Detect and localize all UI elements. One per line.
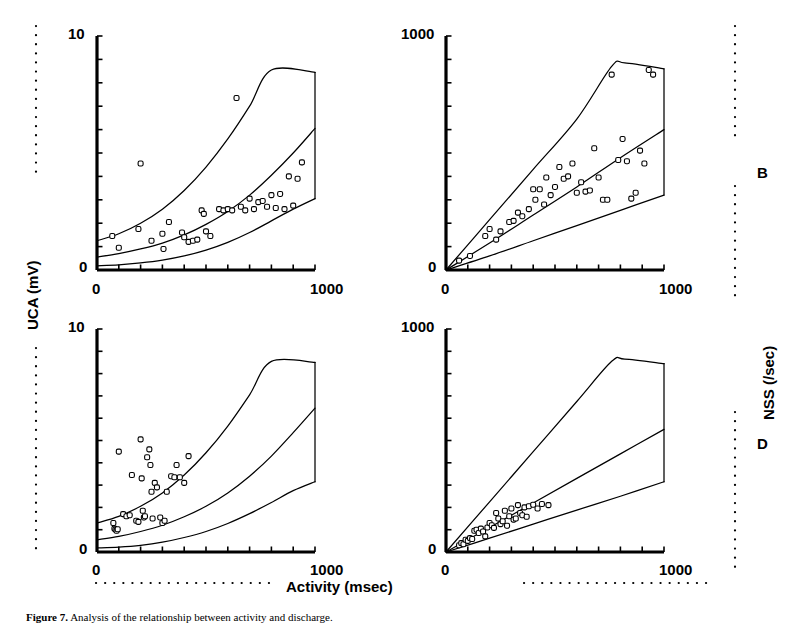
panel-C: [97, 329, 315, 552]
data-point-marker: [620, 136, 625, 141]
data-point-marker: [587, 188, 592, 193]
data-point-marker: [149, 489, 154, 494]
y-axis-title-right: NSS (/sec): [760, 346, 777, 420]
data-point-marker: [177, 475, 182, 480]
panel-d-xtick-min: 0: [441, 561, 449, 578]
data-point-marker: [535, 506, 540, 511]
data-point-marker: [546, 503, 551, 508]
panel-c-ytick-max: 10: [68, 318, 85, 335]
data-point-marker: [273, 205, 278, 210]
panel-a-xtick-min: 0: [92, 280, 100, 297]
data-point-marker: [537, 187, 542, 192]
data-point-marker: [162, 518, 167, 523]
y-axis-title-left: UCA (mV): [24, 261, 41, 330]
data-point-marker: [513, 516, 518, 521]
data-point-marker: [161, 246, 166, 251]
data-point-marker: [116, 449, 121, 454]
panel-a-ytick-max: 10: [68, 25, 85, 42]
panel-D-tick-marks: [446, 329, 664, 552]
data-point-marker: [147, 447, 152, 452]
data-point-marker: [646, 67, 651, 72]
data-point-marker: [182, 235, 187, 240]
data-point-marker: [616, 158, 621, 163]
data-point-marker: [457, 258, 462, 263]
data-point-marker: [291, 203, 296, 208]
panel-C-curve-upper-envelope: [97, 359, 315, 523]
data-point-marker: [116, 245, 121, 250]
data-point-marker: [467, 253, 472, 258]
panel-d-ytick-min: 0: [428, 540, 436, 557]
data-point-marker: [251, 207, 256, 212]
data-point-marker: [201, 211, 206, 216]
panel-d-ytick-max: 1000: [401, 318, 434, 335]
data-point-marker: [633, 190, 638, 195]
data-point-marker: [642, 161, 647, 166]
data-point-marker: [208, 234, 213, 239]
data-point-marker: [247, 196, 252, 201]
data-point-marker: [148, 463, 153, 468]
data-point-marker: [557, 165, 562, 170]
data-point-marker: [260, 198, 265, 203]
panel-B-curves: [446, 61, 664, 270]
data-point-marker: [243, 208, 248, 213]
panel-b-ytick-min: 0: [428, 258, 436, 275]
data-point-marker: [136, 227, 141, 232]
data-point-marker: [638, 148, 643, 153]
panel-B: [446, 36, 664, 270]
data-point-marker: [533, 197, 538, 202]
data-point-marker: [154, 485, 159, 490]
data-point-marker: [548, 193, 553, 198]
scatter-plot-figure: [0, 0, 792, 627]
panel-D-curve-upper-envelope: [446, 357, 664, 552]
data-point-marker: [483, 534, 488, 539]
data-point-marker: [164, 489, 169, 494]
data-point-marker: [487, 227, 492, 232]
data-point-marker: [524, 514, 529, 519]
data-point-marker: [139, 476, 144, 481]
data-point-marker: [172, 475, 177, 480]
panel-b-xtick-max: 1000: [659, 280, 692, 297]
data-point-marker: [269, 193, 274, 198]
data-point-marker: [502, 508, 507, 513]
panel-b-ytick-max: 1000: [401, 25, 434, 42]
panel-D-curves: [446, 357, 664, 552]
figure-caption: Figure 7. Analysis of the relationship b…: [26, 611, 766, 625]
data-point-marker: [596, 175, 601, 180]
data-point-marker: [592, 146, 597, 151]
data-point-marker: [500, 519, 505, 524]
data-point-marker: [544, 175, 549, 180]
data-point-marker: [166, 220, 171, 225]
data-point-marker: [136, 519, 141, 524]
data-point-marker: [182, 480, 187, 485]
data-point-marker: [553, 184, 558, 189]
panel-A-tick-marks: [97, 36, 315, 270]
data-point-marker: [531, 187, 536, 192]
data-point-marker: [539, 502, 544, 507]
panel-a-ytick-min: 0: [79, 258, 87, 275]
panel-B-curve-upper-envelope: [446, 61, 664, 270]
data-point-marker: [195, 237, 200, 242]
data-point-marker: [542, 202, 547, 207]
data-point-marker: [494, 237, 499, 242]
data-point-marker: [579, 180, 584, 185]
data-point-marker: [186, 454, 191, 459]
panel-A: [97, 36, 315, 270]
panel-a-xtick-max: 1000: [310, 280, 343, 297]
panel-D-curve-lower-envelope: [446, 482, 664, 552]
panel-b-xtick-min: 0: [441, 280, 449, 297]
panel-c-xtick-max: 1000: [310, 561, 343, 578]
data-point-marker: [505, 523, 510, 528]
panel-D-data-points: [457, 502, 551, 548]
data-point-marker: [570, 161, 575, 166]
data-point-marker: [483, 234, 488, 239]
x-axis-title-bottom: Activity (msec): [286, 578, 393, 595]
panel-A-data-points: [110, 96, 305, 252]
panel-C-tick-marks: [97, 329, 315, 552]
panel-B-data-points: [457, 67, 656, 263]
data-point-marker: [149, 238, 154, 243]
data-point-marker: [138, 437, 143, 442]
data-point-marker: [140, 508, 145, 513]
data-point-marker: [230, 208, 235, 213]
figure-caption-lead: Figure 7.: [26, 611, 68, 623]
data-point-marker: [234, 96, 239, 101]
